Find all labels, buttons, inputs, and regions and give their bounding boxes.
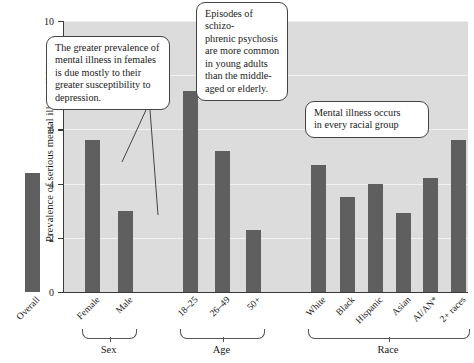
bar[interactable] bbox=[25, 173, 40, 292]
y-axis-tick bbox=[58, 129, 63, 130]
y-axis-tick-label: 10 bbox=[32, 16, 54, 27]
callout-race: Mental illness occursin every racial gro… bbox=[305, 101, 429, 138]
bar[interactable] bbox=[215, 151, 230, 292]
bar[interactable] bbox=[85, 140, 100, 292]
group-bracket bbox=[180, 329, 265, 339]
x-axis-tick-label: Asian bbox=[390, 295, 413, 318]
bar[interactable] bbox=[423, 178, 438, 292]
x-axis-tick-label: Female bbox=[75, 295, 102, 322]
bar[interactable] bbox=[183, 91, 198, 292]
x-axis-tick-label: 50+ bbox=[245, 295, 263, 313]
x-axis-tick-label: Male bbox=[114, 295, 135, 316]
x-axis-tick-label: 26–49 bbox=[208, 295, 232, 319]
bar[interactable] bbox=[451, 140, 466, 292]
bar[interactable] bbox=[340, 197, 355, 292]
x-axis-tick-label: 18–25 bbox=[176, 295, 200, 319]
callout-age: Episodes of schizo-phrenic psychosisare … bbox=[196, 2, 288, 101]
group-label: Race bbox=[378, 344, 399, 355]
chart-figure: Prevalence of serious mental illness (%)… bbox=[0, 0, 474, 363]
x-axis-tick-label: Black bbox=[334, 295, 357, 318]
group-label: Age bbox=[213, 344, 231, 355]
group-bracket bbox=[82, 329, 137, 339]
bar[interactable] bbox=[368, 184, 383, 292]
bar[interactable] bbox=[246, 230, 261, 292]
callout-sex: The greater prevalence ofmental illness … bbox=[46, 36, 170, 110]
y-axis-tick bbox=[58, 184, 63, 185]
y-axis-tick bbox=[58, 292, 63, 293]
y-axis-tick bbox=[58, 238, 63, 239]
bar[interactable] bbox=[311, 165, 326, 292]
group-label: Sex bbox=[101, 344, 117, 355]
x-axis-tick-label: White bbox=[304, 295, 327, 318]
y-axis-tick-label: 6 bbox=[32, 124, 54, 135]
x-axis-tick-label: Overall bbox=[14, 295, 41, 322]
y-axis-tick bbox=[58, 21, 63, 22]
group-bracket bbox=[308, 329, 470, 339]
